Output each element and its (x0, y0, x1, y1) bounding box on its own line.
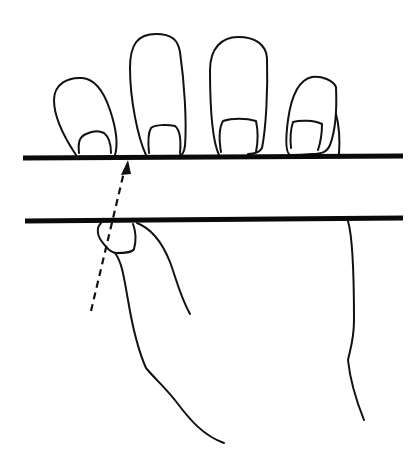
lower-line (25, 218, 403, 221)
ring-finger (210, 37, 267, 155)
thumb (98, 223, 224, 443)
upper-line (23, 156, 403, 158)
arrowhead-icon (121, 160, 131, 175)
little-finger (286, 77, 339, 155)
palm-edge (348, 221, 364, 420)
diagram-svg (0, 0, 419, 464)
middle-finger (130, 34, 186, 155)
hand-grip-diagram (0, 0, 419, 464)
index-finger (54, 78, 116, 155)
